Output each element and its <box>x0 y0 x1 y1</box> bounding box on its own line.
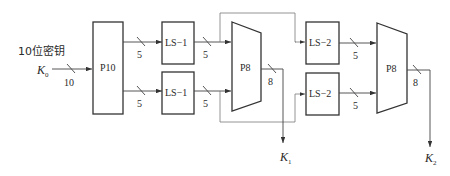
key-generation-diagram: 10位密钥 K 0 10 P10 5 5 LS−1 LS−1 5 5 P8 8 … <box>0 0 450 176</box>
bus-width-ls1-top-p8: 5 <box>203 49 208 60</box>
p8-second-label: P8 <box>386 63 397 74</box>
output-k1-subscript: 1 <box>288 158 292 166</box>
bus-width-ls2-bottom-p8: 5 <box>353 100 358 111</box>
bus-width-p8-second-out: 8 <box>413 77 418 88</box>
bus-slash <box>268 64 276 73</box>
diagram-title: 10位密钥 <box>18 44 65 58</box>
bus-slash <box>413 65 421 74</box>
p8-first-label: P8 <box>240 62 251 73</box>
output-k2-subscript: 2 <box>433 159 437 167</box>
ls2-top-label: LS−2 <box>309 37 331 48</box>
bus-width-p10-ls1-bottom: 5 <box>137 98 142 109</box>
bus-width-ls1-bottom-p8: 5 <box>203 98 208 109</box>
input-width-label: 10 <box>64 77 74 88</box>
wire-p8-second-out <box>407 70 430 147</box>
bus-width-p10-ls1-top: 5 <box>137 49 142 60</box>
bus-slash <box>67 64 75 73</box>
ls1-bottom-label: LS−1 <box>165 87 187 98</box>
ls2-bottom-label: LS−2 <box>309 88 331 99</box>
p10-label: P10 <box>100 62 116 73</box>
bus-slash <box>203 86 211 95</box>
bus-slash <box>350 38 358 47</box>
bus-slash <box>137 37 145 46</box>
bus-slash <box>350 88 358 97</box>
bus-slash <box>203 37 211 46</box>
bus-slash <box>137 86 145 95</box>
ls1-top-label: LS−1 <box>165 37 187 48</box>
input-key-subscript: 0 <box>45 71 49 79</box>
bus-width-p8-first-out: 8 <box>268 76 273 87</box>
bus-width-ls2-top-p8: 5 <box>353 50 358 61</box>
